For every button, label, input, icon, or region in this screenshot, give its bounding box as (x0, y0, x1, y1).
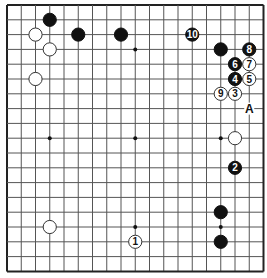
move-number-label: 8 (246, 44, 252, 55)
white-stone (43, 43, 56, 56)
black-stone-icon (214, 235, 227, 248)
white-stone-3: 3 (228, 87, 241, 100)
black-stone (114, 28, 127, 41)
white-stone-icon (29, 28, 42, 41)
go-board: 10867459321 A (0, 0, 267, 278)
white-stone-icon (29, 72, 42, 85)
black-stone-4: 4 (228, 72, 241, 85)
move-number-label: 3 (232, 88, 238, 99)
move-number-label: 6 (232, 59, 238, 70)
black-stone-6: 6 (228, 58, 241, 71)
black-stone-icon (214, 43, 227, 56)
white-stone (29, 72, 42, 85)
star-point-icon (219, 225, 223, 229)
star-point-icon (133, 136, 137, 140)
point-marker-label: A (245, 102, 254, 116)
move-number-label: 9 (218, 88, 224, 99)
black-stone (214, 206, 227, 219)
markers-layer: A (244, 102, 254, 116)
move-number-label: 2 (232, 162, 238, 173)
black-stone (72, 28, 85, 41)
white-stone (29, 28, 42, 41)
move-number-label: 4 (232, 74, 238, 85)
white-stone-icon (228, 132, 241, 145)
black-stone (43, 13, 56, 26)
move-number-label: 1 (132, 236, 138, 247)
white-stone-5: 5 (243, 72, 256, 85)
black-stone-icon (72, 28, 85, 41)
white-stone-icon (43, 43, 56, 56)
white-stone-9: 9 (214, 87, 227, 100)
white-stone-1: 1 (129, 235, 142, 248)
black-stone-icon (114, 28, 127, 41)
white-stone-icon (43, 220, 56, 233)
star-point-icon (48, 136, 52, 140)
star-point-icon (219, 136, 223, 140)
black-stone-2: 2 (228, 161, 241, 174)
star-point-icon (133, 225, 137, 229)
move-number-label: 7 (246, 59, 252, 70)
white-stone (43, 220, 56, 233)
black-stone-icon (214, 206, 227, 219)
black-stone-icon (43, 13, 56, 26)
black-stone (214, 43, 227, 56)
move-number-label: 5 (246, 74, 252, 85)
white-stone (228, 132, 241, 145)
move-number-label: 10 (187, 29, 199, 40)
black-stone-8: 8 (243, 43, 256, 56)
black-stone-10: 10 (186, 28, 199, 41)
star-point-icon (133, 47, 137, 51)
black-stone (214, 235, 227, 248)
white-stone-7: 7 (243, 58, 256, 71)
